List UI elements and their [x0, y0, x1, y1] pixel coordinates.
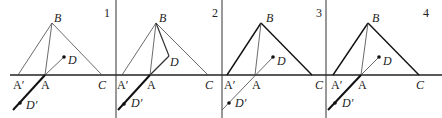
- label-A: A: [252, 78, 261, 92]
- label-B: B: [266, 11, 274, 25]
- panel-number: 4: [423, 6, 429, 20]
- label-C: C: [205, 78, 214, 92]
- label-A-prime: A′: [224, 78, 236, 92]
- label-D-prime: D′: [234, 96, 247, 110]
- panel-1: B D A′ A C D′ 1: [13, 6, 110, 112]
- panel-number: 2: [212, 6, 218, 20]
- panel-number: 3: [316, 6, 322, 20]
- label-A: A: [147, 78, 156, 92]
- label-A: A: [358, 78, 367, 92]
- label-D: D: [67, 53, 77, 67]
- label-D: D: [276, 54, 286, 68]
- label-A-prime: A′: [331, 78, 343, 92]
- diagram-strip: B D A′ A C D′ 1 B D A′ A C D′ 2 B D A′ A…: [0, 0, 442, 118]
- panel-number: 1: [104, 6, 110, 20]
- label-C: C: [98, 78, 107, 92]
- label-C: C: [315, 78, 324, 92]
- label-D-prime: D′: [341, 96, 354, 110]
- label-A-prime: A′: [117, 78, 129, 92]
- panel-2: B D A′ A C D′ 2: [117, 6, 218, 110]
- label-D-prime: D′: [130, 96, 143, 110]
- label-A: A: [41, 78, 50, 92]
- label-B: B: [54, 11, 62, 25]
- label-A-prime: A′: [13, 78, 25, 92]
- geometry-figure: B D A′ A C D′ 1 B D A′ A C D′ 2 B D A′ A…: [0, 0, 442, 118]
- label-C: C: [416, 78, 425, 92]
- panel-4: B D A′ A C D′ 4: [328, 6, 429, 110]
- label-D: D: [169, 55, 179, 69]
- label-B: B: [372, 11, 380, 25]
- label-D-prime: D′: [25, 98, 38, 112]
- panel-3: B D A′ A C D′ 3: [222, 6, 324, 110]
- label-D: D: [382, 54, 392, 68]
- label-B: B: [159, 11, 167, 25]
